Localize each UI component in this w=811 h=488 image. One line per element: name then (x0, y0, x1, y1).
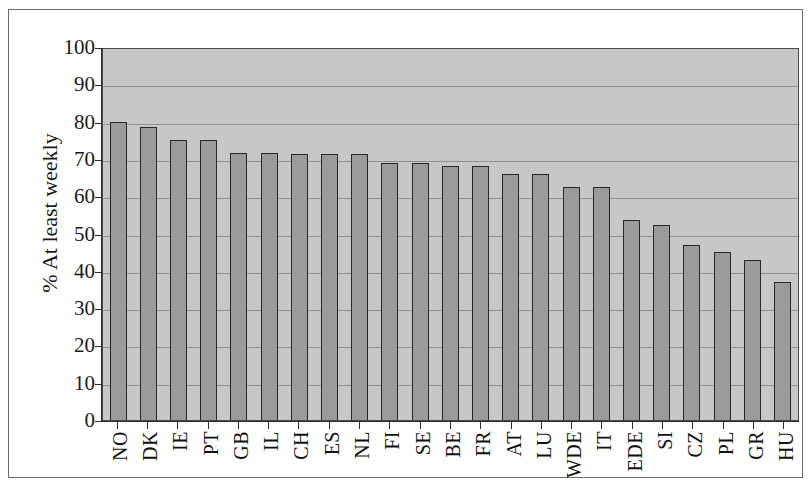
x-axis-tick-mark (480, 421, 481, 429)
x-axis-tick-label: FR (472, 431, 489, 456)
y-axis-tick-container: 1009080706050403020100 (49, 10, 95, 488)
x-axis-tick-label: IL (260, 431, 277, 451)
bar (472, 166, 489, 420)
x-axis-tick-label: PL (715, 431, 732, 455)
x-axis-tick-mark (601, 421, 602, 429)
y-axis-tick-mark (95, 346, 102, 347)
bar (623, 220, 640, 420)
x-axis-tick-mark (420, 421, 421, 429)
x-axis-tick-mark (692, 421, 693, 429)
cropped-title-remnant (0, 0, 811, 7)
bar (774, 282, 791, 420)
x-axis-tick-mark (177, 421, 178, 429)
x-axis-tick-label: AT (503, 431, 520, 456)
bar (170, 140, 187, 420)
bar (291, 154, 308, 420)
x-axis-tick-label: CH (290, 431, 307, 460)
x-axis-tick-label: CZ (684, 431, 701, 458)
y-axis-tick-mark (95, 421, 102, 422)
x-axis-tick-label: BE (442, 431, 459, 458)
bar (261, 153, 278, 420)
x-axis-tick-mark (632, 421, 633, 429)
x-axis-tick-container (102, 421, 799, 429)
x-axis-tick-label: NO (109, 431, 126, 461)
x-axis-tick-mark (541, 421, 542, 429)
bar (714, 252, 731, 420)
x-axis-tick-label: GR (745, 431, 762, 460)
bar (412, 163, 429, 420)
y-axis-tick-mark (95, 384, 102, 385)
y-axis-tick-mark (95, 197, 102, 198)
y-axis-tick-mark (95, 48, 102, 49)
x-axis-tick-mark (662, 421, 663, 429)
bar (593, 187, 610, 420)
x-axis-tick-label: ES (321, 431, 338, 455)
x-axis-tick-label: NL (351, 431, 368, 459)
bar (442, 166, 459, 420)
y-axis-tick-mark (95, 235, 102, 236)
bar (563, 187, 580, 420)
y-axis-tick-label: 50 (59, 224, 95, 245)
bar (653, 225, 670, 420)
y-axis-tick-label: 0 (59, 410, 95, 431)
y-axis-tick-mark (95, 272, 102, 273)
y-axis-tick-label: 80 (59, 112, 95, 133)
bar (351, 154, 368, 420)
bar (683, 245, 700, 420)
x-axis-tick-label: SI (654, 431, 671, 450)
x-axis-tick-mark (723, 421, 724, 429)
x-axis-label-container: NODKIEPTGBILCHESNLFISEBEFRATLUWDEITEDESI… (102, 431, 799, 488)
y-axis-tick-label: 10 (59, 373, 95, 394)
y-axis-tick-label: 90 (59, 74, 95, 95)
y-axis-tick-mark (95, 160, 102, 161)
x-axis-tick-mark (450, 421, 451, 429)
x-axis-tick-label: PT (200, 431, 217, 455)
x-axis-tick-label: IT (593, 431, 610, 451)
plot-area (102, 48, 799, 421)
x-axis-tick-mark (147, 421, 148, 429)
bar (140, 127, 157, 420)
y-axis-tick-label: 30 (59, 298, 95, 319)
y-axis-tick-mark (95, 123, 102, 124)
bar (532, 174, 549, 420)
x-axis-tick-mark (117, 421, 118, 429)
x-axis-tick-mark (783, 421, 784, 429)
x-axis-tick-mark (208, 421, 209, 429)
x-axis-tick-mark (571, 421, 572, 429)
x-axis-tick-label: GB (230, 431, 247, 460)
x-axis-tick-mark (329, 421, 330, 429)
x-axis-tick-mark (298, 421, 299, 429)
bar (230, 153, 247, 420)
bar (744, 260, 761, 420)
x-axis-tick-label: EDE (624, 431, 641, 471)
x-axis-tick-mark (511, 421, 512, 429)
x-axis-tick-mark (389, 421, 390, 429)
x-axis-tick-label: IE (169, 431, 186, 451)
y-axis-tick-label: 20 (59, 335, 95, 356)
y-axis-tick-label: 40 (59, 261, 95, 282)
x-axis-tick-label: WDE (563, 431, 580, 478)
bar (502, 174, 519, 420)
y-axis-tick-label: 70 (59, 149, 95, 170)
bar (110, 122, 127, 420)
x-axis-tick-label: HU (775, 431, 792, 461)
x-axis-tick-mark (268, 421, 269, 429)
x-axis-tick-mark (753, 421, 754, 429)
x-axis-tick-label: LU (533, 431, 550, 459)
y-axis-tick-label: 100 (59, 37, 95, 58)
x-axis-tick-label: DK (139, 431, 156, 461)
x-axis-tick-label: FI (381, 431, 398, 450)
figure-frame: % At least weekly 1009080706050403020100… (8, 9, 803, 478)
x-axis-tick-mark (359, 421, 360, 429)
x-axis-tick-mark (238, 421, 239, 429)
bar (200, 140, 217, 420)
x-axis-tick-label: SE (412, 431, 429, 455)
y-axis-tick-label: 60 (59, 186, 95, 207)
bar-series (103, 49, 798, 420)
bar (321, 154, 338, 420)
y-axis-tick-mark (95, 85, 102, 86)
bar (381, 163, 398, 420)
y-axis-tick-mark (95, 309, 102, 310)
